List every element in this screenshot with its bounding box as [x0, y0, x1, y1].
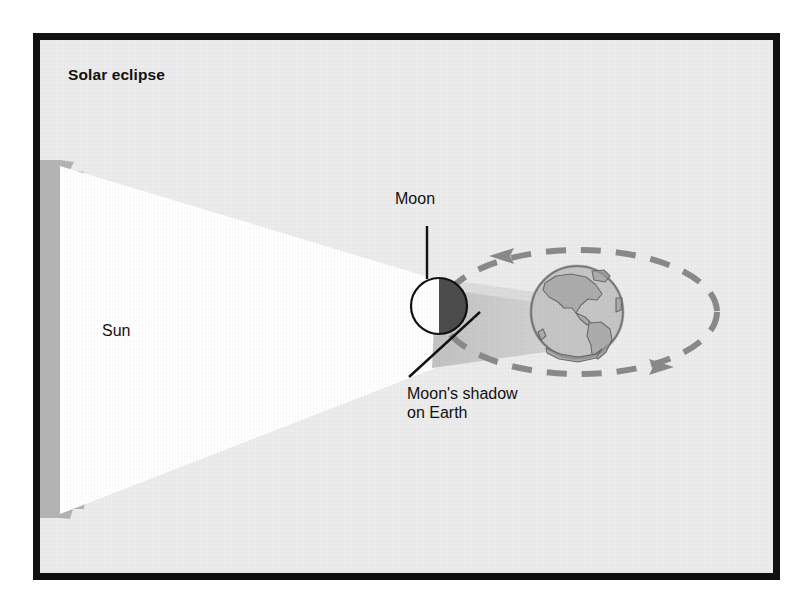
figure-title: Solar eclipse [68, 66, 165, 84]
figure-root: Solar eclipse Sun Moon Moon's shadow on … [0, 0, 808, 611]
diagram-frame: Solar eclipse Sun Moon Moon's shadow on … [33, 33, 780, 580]
diagram-stage [40, 40, 773, 573]
moon-body [411, 278, 467, 334]
diagram-svg [40, 40, 773, 573]
label-moon: Moon [395, 190, 435, 209]
label-moon-shadow-on-earth: Moon's shadow on Earth [407, 385, 518, 422]
label-sun: Sun [102, 322, 130, 341]
